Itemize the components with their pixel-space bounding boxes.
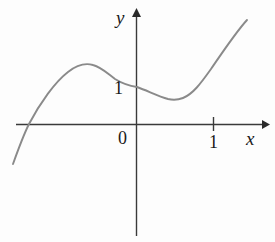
- y-axis-arrowhead: [132, 8, 141, 17]
- x-axis-label: x: [246, 129, 254, 148]
- x-axis-arrowhead: [262, 120, 270, 129]
- plot-canvas: [0, 0, 275, 242]
- origin-label: 0: [118, 129, 127, 147]
- y-axis-label: y: [116, 8, 124, 27]
- graph-figure: y x 0 1 1: [0, 0, 275, 242]
- y-tick-label-1: 1: [114, 79, 123, 97]
- x-tick-label-1: 1: [209, 133, 218, 151]
